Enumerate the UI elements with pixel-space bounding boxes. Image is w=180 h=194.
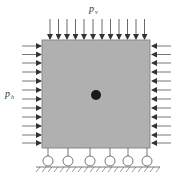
roller-support	[43, 148, 53, 166]
center-point-dot	[91, 90, 101, 100]
diagram-canvas: p v p h	[0, 0, 180, 194]
roller-icon	[43, 156, 53, 166]
roller-supports	[43, 148, 152, 166]
right-load-arrows	[152, 46, 171, 143]
top-load-label-base: p	[88, 3, 94, 14]
roller-icon	[123, 156, 133, 166]
roller-support	[123, 148, 133, 166]
top-load-label: p v	[88, 3, 98, 15]
left-load-arrows	[22, 46, 41, 143]
side-load-label: p h	[4, 88, 14, 100]
ground-hatch-icon	[36, 167, 160, 172]
roller-icon	[105, 156, 115, 166]
roller-support	[105, 148, 115, 166]
roller-support	[63, 148, 73, 166]
ground	[36, 167, 160, 172]
top-load-arrows	[50, 19, 145, 39]
roller-support	[142, 148, 152, 166]
top-load-label-sub: v	[95, 9, 98, 15]
side-load-label-base: p	[4, 88, 10, 99]
roller-support	[85, 148, 95, 166]
roller-icon	[85, 156, 95, 166]
roller-icon	[142, 156, 152, 166]
loaded-block	[42, 40, 150, 148]
side-load-label-sub: h	[11, 94, 14, 100]
roller-icon	[63, 156, 73, 166]
